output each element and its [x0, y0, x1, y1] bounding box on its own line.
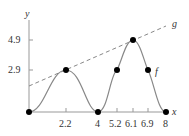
- curve-g-label: g: [172, 18, 177, 29]
- x-tick-label-6.9: 6.9: [141, 118, 154, 129]
- point-4-0: [95, 109, 101, 115]
- x-tick-label-6.1: 6.1: [125, 118, 138, 129]
- curve-f-label: f: [155, 66, 159, 77]
- x-axis-label: x: [171, 106, 177, 117]
- y-axis-label: y: [24, 8, 30, 19]
- point-6.1-4.9: [130, 37, 136, 43]
- point-0-0: [26, 109, 32, 115]
- function-graph: y x 4.9 2.9 2.2 4 5.2 6.1 6.9 8 g f: [0, 0, 189, 136]
- x-tick-label-8: 8: [163, 118, 168, 129]
- x-tick-label-2.2: 2.2: [59, 118, 72, 129]
- curve-g: [29, 26, 166, 86]
- y-tick-label-2.9: 2.9: [8, 64, 21, 75]
- point-8-0: [163, 109, 169, 115]
- point-5.2-2.9: [114, 67, 120, 73]
- curve-f: [29, 40, 166, 112]
- y-tick-label-4.9: 4.9: [8, 34, 21, 45]
- x-tick-label-5.2: 5.2: [109, 118, 122, 129]
- point-2.2-2.9: [63, 67, 69, 73]
- x-tick-label-4: 4: [95, 118, 100, 129]
- point-6.9-2.9: [145, 67, 151, 73]
